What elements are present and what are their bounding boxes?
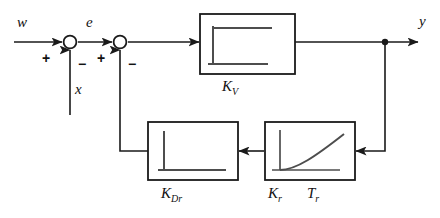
signal-label-e: e (86, 15, 93, 30)
sum2-minus-sign: − (128, 57, 136, 71)
sum1-minus-sign: − (78, 57, 86, 71)
sum1-plus-sign: + (42, 51, 50, 65)
block-label-kr-sub: r (278, 193, 282, 204)
block-kdr (148, 122, 238, 180)
block-label-kv-sub: V (232, 86, 238, 97)
block-label-kr-main: K (268, 185, 278, 201)
block-label-tr: Tr (307, 186, 319, 204)
block-label-kv: KV (222, 79, 238, 97)
block-label-kv-main: K (222, 78, 232, 94)
block-diagram-canvas: w e x y + − + − KV KDr Kr Tr (0, 0, 440, 218)
block-label-kdr-sub: Dr (171, 193, 182, 204)
signal-label-x: x (75, 82, 82, 97)
block-kr (265, 122, 355, 180)
output-tap-dot (382, 39, 388, 45)
block-label-kdr-main: K (161, 185, 171, 201)
block-label-kr: Kr (268, 186, 282, 204)
signal-label-y: y (419, 14, 426, 29)
diagram-svg (0, 0, 440, 218)
block-label-kdr: KDr (161, 186, 182, 204)
block-label-tr-sub: r (315, 193, 319, 204)
wire-tap-to-kr (356, 42, 385, 151)
signal-label-w: w (17, 15, 27, 30)
summing-junction-1 (64, 36, 77, 49)
summing-junction-2 (114, 36, 127, 49)
sum2-plus-sign: + (97, 51, 105, 65)
